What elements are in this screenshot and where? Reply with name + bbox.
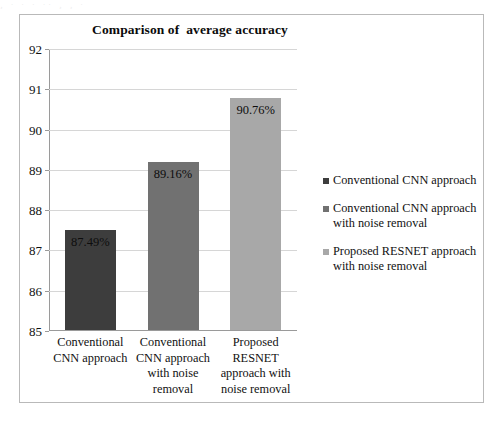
x-axis-category-label: ProposedRESNETapproach withnoise removal <box>214 335 297 397</box>
legend-swatch-icon <box>323 206 329 212</box>
category-label-line: RESNET <box>214 351 297 367</box>
category-label-line: Conventional <box>132 335 215 351</box>
y-axis-tick-label: 87 <box>29 244 42 257</box>
y-axis-tick-mark <box>45 250 49 251</box>
bar-value-label: 89.16% <box>154 168 193 181</box>
y-axis-line <box>49 49 50 331</box>
legend-label-line: with noise removal <box>333 216 476 232</box>
y-axis-tick-label: 85 <box>29 325 42 338</box>
chart-title: Comparison of average accuracy <box>20 22 360 38</box>
x-axis-category-label: ConventionalCNN approach <box>49 335 132 366</box>
y-axis-tick-label: 91 <box>29 83 42 96</box>
y-axis-tick-mark <box>45 89 49 90</box>
legend-item-label: Conventional CNN approach <box>333 173 476 189</box>
category-label-line: CNN approach <box>132 351 215 367</box>
category-label-line: removal <box>132 382 215 398</box>
bar: 87.49% <box>65 230 116 330</box>
plot-area: 8586878889909192 87.49%89.16%90.76% <box>49 49 297 331</box>
category-label-line: with noise <box>132 366 215 382</box>
category-label-line: CNN approach <box>49 351 132 367</box>
legend-label-line: Conventional CNN approach <box>333 201 476 217</box>
category-label-line: Proposed <box>214 335 297 351</box>
y-axis-tick-mark <box>45 130 49 131</box>
category-label-line: Conventional <box>49 335 132 351</box>
y-axis-tick-label: 89 <box>29 163 42 176</box>
legend-item[interactable]: Proposed RESNET approachwith noise remov… <box>323 244 478 275</box>
chart-legend: Conventional CNN approachConventional CN… <box>323 173 478 287</box>
y-axis-tick-label: 92 <box>29 43 42 56</box>
y-axis-tick-label: 90 <box>29 123 42 136</box>
legend-item[interactable]: Conventional CNN approachwith noise remo… <box>323 201 478 232</box>
y-axis-tick-mark <box>45 49 49 50</box>
legend-item-label: Conventional CNN approachwith noise remo… <box>333 201 476 232</box>
clipped-text-artifact: ¸ · · · ·· ¸ ¸ · <box>0 0 501 10</box>
legend-label-line: Conventional CNN approach <box>333 173 476 189</box>
y-axis-tick-mark <box>45 291 49 292</box>
y-axis-tick-label: 86 <box>29 284 42 297</box>
bar: 89.16% <box>148 162 199 330</box>
chart-frame: Comparison of average accuracy 858687888… <box>19 14 484 403</box>
y-axis-tick-mark <box>45 170 49 171</box>
category-label-line: noise removal <box>214 382 297 398</box>
legend-swatch-icon <box>323 178 329 184</box>
legend-label-line: with noise removal <box>333 259 476 275</box>
x-axis-category-labels: ConventionalCNN approachConventionalCNN … <box>49 335 297 405</box>
gridline <box>49 49 297 50</box>
legend-swatch-icon <box>323 249 329 255</box>
x-axis-category-label: ConventionalCNN approachwith noiseremova… <box>132 335 215 397</box>
x-axis-line <box>49 330 297 331</box>
y-axis-tick-mark <box>45 331 49 332</box>
y-axis-tick-mark <box>45 210 49 211</box>
legend-item-label: Proposed RESNET approachwith noise remov… <box>333 244 476 275</box>
legend-label-line: Proposed RESNET approach <box>333 244 476 260</box>
bar: 90.76% <box>230 98 281 330</box>
legend-item[interactable]: Conventional CNN approach <box>323 173 478 189</box>
bar-value-label: 90.76% <box>236 104 275 117</box>
bar-value-label: 87.49% <box>71 236 110 249</box>
category-label-line: approach with <box>214 366 297 382</box>
y-axis-tick-label: 88 <box>29 204 42 217</box>
gridline <box>49 89 297 90</box>
